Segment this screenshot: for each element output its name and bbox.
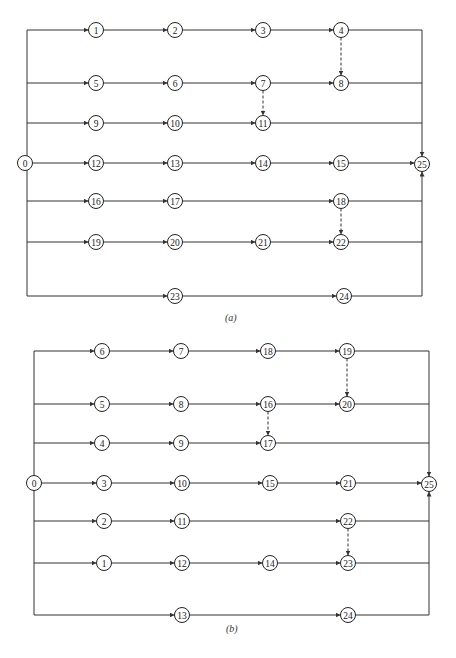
node-label: 14 (265, 559, 275, 569)
node-label: 21 (343, 479, 353, 489)
node-14: 14 (256, 156, 271, 171)
node-3: 3 (97, 476, 112, 491)
node-label: 13 (170, 159, 180, 169)
node-1: 1 (97, 556, 112, 571)
node-label: 13 (177, 611, 187, 621)
node-label: 15 (265, 479, 275, 489)
node-label: 15 (336, 159, 346, 169)
network-diagram-a: 1234567891011121314151617181920212223240… (18, 23, 430, 304)
node-label: 12 (177, 559, 187, 569)
node-20: 20 (340, 397, 355, 412)
node-label: 21 (258, 238, 268, 248)
node-label: 25 (417, 160, 427, 170)
node-label: 25 (424, 480, 434, 490)
node-label: 0 (23, 159, 28, 169)
node-label: 23 (170, 292, 180, 302)
node-label: 3 (102, 479, 107, 489)
node-label: 10 (170, 119, 180, 129)
node-15: 15 (334, 156, 349, 171)
node-label: 18 (263, 347, 273, 357)
node-9: 9 (174, 436, 189, 451)
node-label: 1 (102, 559, 107, 569)
node-7: 7 (174, 344, 189, 359)
node-13: 13 (168, 156, 183, 171)
node-18: 18 (261, 344, 276, 359)
node-label: 7 (261, 79, 266, 89)
node-label: 20 (170, 238, 180, 248)
node-label: 6 (173, 79, 178, 89)
node-label: 17 (263, 439, 273, 449)
node-24: 24 (337, 289, 352, 304)
node-label: 22 (343, 517, 353, 527)
node-25: 25 (422, 477, 437, 492)
node-11: 11 (256, 116, 271, 131)
caption-a: (a) (225, 312, 237, 323)
node-2: 2 (168, 23, 183, 38)
node-3: 3 (256, 23, 271, 38)
node-8: 8 (334, 76, 349, 91)
node-label: 5 (100, 400, 105, 410)
node-label: 19 (342, 347, 352, 357)
node-1: 1 (89, 23, 104, 38)
node-label: 23 (343, 559, 353, 569)
node-label: 2 (102, 517, 107, 527)
node-label: 4 (339, 26, 344, 36)
node-19: 19 (340, 344, 355, 359)
node-17: 17 (168, 194, 183, 209)
node-4: 4 (334, 23, 349, 38)
node-label: 17 (170, 197, 180, 207)
node-10: 10 (168, 116, 183, 131)
node-label: 2 (173, 26, 178, 36)
node-label: 6 (100, 347, 105, 357)
node-5: 5 (89, 76, 104, 91)
node-label: 10 (177, 479, 187, 489)
network-diagram-canvas: 1234567891011121314151617181920212223240… (0, 0, 456, 658)
node-label: 9 (94, 119, 99, 129)
node-18: 18 (334, 194, 349, 209)
node-10: 10 (175, 476, 190, 491)
node-label: 9 (179, 439, 184, 449)
node-label: 24 (343, 611, 353, 621)
node-16: 16 (89, 194, 104, 209)
node-21: 21 (341, 476, 356, 491)
node-7: 7 (256, 76, 271, 91)
node-2: 2 (97, 514, 112, 529)
network-diagram-b: 6718195816204917310152121122112142313240… (27, 344, 437, 623)
node-4: 4 (95, 436, 110, 451)
node-14: 14 (263, 556, 278, 571)
node-17: 17 (261, 436, 276, 451)
node-11: 11 (175, 514, 190, 529)
node-label: 1 (94, 26, 99, 36)
node-label: 3 (261, 26, 266, 36)
node-label: 18 (336, 197, 346, 207)
node-label: 7 (179, 347, 184, 357)
node-16: 16 (261, 397, 276, 412)
node-label: 24 (339, 292, 349, 302)
caption-b: (b) (226, 623, 238, 634)
node-label: 8 (339, 79, 344, 89)
node-24: 24 (341, 608, 356, 623)
node-label: 16 (263, 400, 273, 410)
node-label: 20 (342, 400, 352, 410)
node-6: 6 (168, 76, 183, 91)
node-label: 12 (91, 159, 101, 169)
node-label: 14 (258, 159, 268, 169)
node-20: 20 (168, 235, 183, 250)
node-21: 21 (256, 235, 271, 250)
node-0: 0 (27, 476, 42, 491)
node-label: 16 (91, 197, 101, 207)
node-13: 13 (175, 608, 190, 623)
node-6: 6 (95, 344, 110, 359)
node-label: 8 (179, 400, 184, 410)
node-label: 19 (91, 238, 101, 248)
node-22: 22 (341, 514, 356, 529)
node-15: 15 (263, 476, 278, 491)
node-label: 0 (32, 479, 37, 489)
node-label: 22 (336, 238, 346, 248)
node-25: 25 (415, 157, 430, 172)
node-0: 0 (18, 156, 33, 171)
node-12: 12 (175, 556, 190, 571)
node-19: 19 (89, 235, 104, 250)
node-23: 23 (341, 556, 356, 571)
node-label: 11 (177, 517, 186, 527)
